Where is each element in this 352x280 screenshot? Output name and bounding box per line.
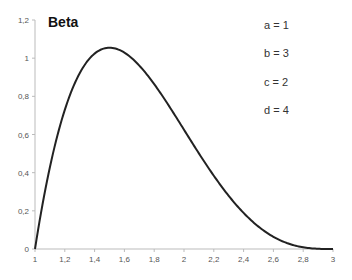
x-tick-label: 1,6 [119, 255, 131, 264]
beta-curve [35, 48, 333, 249]
param-a: a = 1 [264, 19, 289, 31]
y-tick-label: 0,6 [18, 131, 30, 140]
param-d: d = 4 [264, 104, 289, 116]
x-tick-label: 2,2 [208, 255, 220, 264]
chart-title: Beta [48, 14, 79, 30]
x-tick-label: 2,4 [238, 255, 250, 264]
x-tick-label: 1,4 [89, 255, 101, 264]
y-tick-label: 0,2 [18, 207, 30, 216]
x-tick-label: 1,2 [59, 255, 71, 264]
param-c: c = 2 [264, 76, 288, 88]
x-tick-label: 1,8 [149, 255, 161, 264]
y-tick-label: 1,2 [18, 16, 30, 25]
y-tick-label: 1 [25, 54, 30, 63]
param-b: b = 3 [264, 47, 289, 59]
x-tick-label: 2 [182, 255, 187, 264]
beta-chart: 11,21,41,61,822,22,42,62,8300,20,40,60,8… [0, 0, 352, 280]
parameter-list: a = 1 b = 3 c = 2 d = 4 [264, 19, 289, 116]
y-tick-label: 0,8 [18, 92, 30, 101]
x-tick-label: 1 [33, 255, 38, 264]
x-tick-label: 3 [331, 255, 336, 264]
x-tick-label: 2,8 [298, 255, 310, 264]
beta-pdf-line [35, 48, 333, 249]
y-tick-label: 0,4 [18, 169, 30, 178]
x-tick-label: 2,6 [268, 255, 280, 264]
y-tick-label: 0 [25, 245, 30, 254]
